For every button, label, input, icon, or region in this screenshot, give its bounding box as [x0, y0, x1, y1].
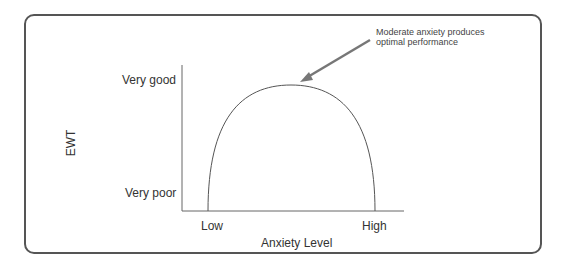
y-axis-label: EWT	[64, 130, 78, 157]
x-tick-low: Low	[201, 219, 223, 233]
arrow-head-icon	[300, 72, 313, 82]
x-tick-high: High	[362, 219, 387, 233]
y-tick-high: Very good	[122, 73, 176, 87]
annotation-line-1: Moderate anxiety produces	[376, 27, 485, 37]
annotation-text: Moderate anxiety produces optimal perfor…	[376, 27, 485, 47]
y-tick-low: Very poor	[125, 186, 176, 200]
annotation-arrow-shaft	[306, 40, 370, 78]
x-axis-label: Anxiety Level	[261, 236, 332, 250]
inverted-u-curve	[208, 85, 375, 211]
annotation-line-2: optimal performance	[376, 37, 485, 47]
